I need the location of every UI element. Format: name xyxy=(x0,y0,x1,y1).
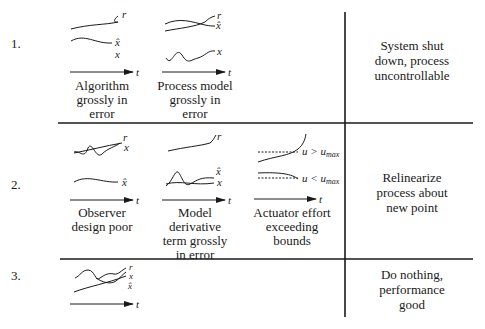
caption-model-derivative-error: Model derivative term grossly in error xyxy=(150,206,240,262)
t-label: t xyxy=(319,193,323,205)
x-label: x xyxy=(216,45,222,57)
action-do-nothing: Do nothing, performance good xyxy=(352,267,472,312)
x-label: x xyxy=(123,141,129,153)
caption-algorithm-error: Algorithm grossly in error xyxy=(62,79,142,121)
xhat-label: x̂ xyxy=(114,36,120,48)
xhat-label: x̂ xyxy=(121,176,127,188)
xhat-label: x̂ xyxy=(127,281,132,291)
u-greater-umax-label: u > umax xyxy=(302,145,340,159)
caption-process-model-error: Process model grossly in error xyxy=(150,79,240,121)
caption-observer-design-poor: Observer design poor xyxy=(62,206,142,234)
xhat-label: x̂ xyxy=(215,19,221,31)
t-label: t xyxy=(136,194,140,206)
t-label: t xyxy=(228,194,232,206)
t-label: t xyxy=(228,66,232,78)
t-label: t xyxy=(136,298,140,310)
action-relinearize: Relinearize process about new point xyxy=(352,170,472,215)
x-label: x xyxy=(114,48,120,60)
t-label: t xyxy=(136,66,140,78)
action-system-shutdown: System shut down, process uncontrollable xyxy=(352,38,472,83)
x-label: x xyxy=(216,176,222,188)
r-label: r xyxy=(217,130,222,142)
caption-actuator-effort-bounds: Actuator effort exceeding bounds xyxy=(244,206,340,248)
u-less-umax-label: u < umax xyxy=(302,172,340,186)
r-label: r xyxy=(122,8,127,20)
x-label: x xyxy=(128,271,133,281)
